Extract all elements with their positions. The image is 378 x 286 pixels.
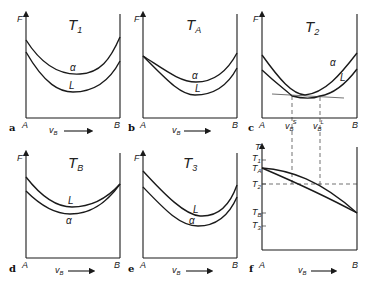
panel-title: T1 (68, 16, 82, 35)
panel-letter: f (249, 263, 254, 274)
tick-label-tb: TB (252, 207, 262, 218)
panel-letter: c (248, 122, 254, 133)
right-component-label: B (232, 260, 238, 270)
y-axis-label: F (134, 14, 140, 24)
panel-a: F T1 α L A B vB a (9, 14, 120, 136)
right-component-label: B (352, 260, 358, 270)
alpha-curve (143, 53, 237, 82)
liquidus-composition-label: vBL (313, 119, 324, 132)
y-axis-label: F (17, 14, 23, 24)
panel-f: T T1 TA T2 TB T3 A B vB f (249, 142, 358, 276)
liquid-curve (143, 171, 237, 216)
left-component-label: A (139, 120, 146, 130)
panel-letter: e (128, 263, 134, 274)
right-component-label: B (352, 120, 358, 130)
panel-letter: a (9, 122, 16, 133)
tick-label-t2: T2 (252, 179, 262, 190)
right-component-label: B (232, 120, 238, 130)
panel-title: TB (68, 154, 83, 173)
tick-label-t3: T3 (252, 220, 262, 231)
curve-label-l: L (340, 72, 346, 83)
panel-e: F T3 L α A B vB e (128, 153, 238, 276)
panel-letter: b (128, 122, 135, 133)
left-component-label: A (258, 120, 265, 130)
x-axis-label: vB (298, 265, 307, 276)
solidus-curve (262, 168, 357, 213)
y-axis-label: F (253, 14, 259, 24)
x-axis-label: vB (55, 265, 64, 276)
panel-c: F T2 α L A B vBS vBL c (248, 14, 358, 185)
y-axis-label: F (134, 153, 140, 163)
curve-label-alpha: α (70, 62, 76, 73)
y-axis-label: F (17, 153, 23, 163)
solidus-composition-label: vBS (285, 119, 297, 132)
x-axis-label: vB (172, 125, 181, 136)
left-component-label: A (21, 120, 28, 130)
panel-title: T2 (305, 18, 319, 37)
phase-diagram-figure: F T1 α L A B vB a F TA α L A B vB b F T2 (0, 0, 378, 286)
left-component-label: A (258, 260, 265, 270)
liquid-curve (143, 56, 237, 95)
curve-label-alpha: α (66, 215, 72, 226)
curve-label-alpha: α (330, 57, 336, 68)
panel-b: F TA α L A B vB b (128, 14, 238, 136)
right-component-label: B (114, 120, 120, 130)
x-axis-label: vB (172, 265, 181, 276)
left-component-label: A (21, 260, 28, 270)
curve-label-l: L (68, 195, 74, 206)
panel-title: T3 (183, 154, 197, 173)
panel-title: TA (186, 16, 201, 35)
x-axis-label: vB (49, 125, 58, 136)
curve-label-l: L (69, 80, 75, 91)
curve-label-l: L (193, 204, 199, 215)
curve-label-l: L (195, 83, 201, 94)
tick-label-ta: TA (252, 163, 262, 174)
panel-letter: d (9, 263, 16, 274)
right-component-label: B (114, 260, 120, 270)
curve-label-alpha: α (189, 215, 195, 226)
y-axis-label: T (255, 142, 262, 152)
left-component-label: A (139, 260, 146, 270)
curve-label-alpha: α (192, 70, 198, 81)
panel-d: F TB L α A B vB d (9, 153, 120, 276)
